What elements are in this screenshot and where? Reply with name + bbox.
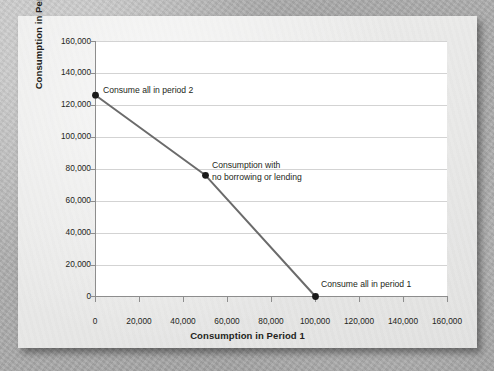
data-point-no-borrowing-or-lending[interactable]: [202, 172, 209, 179]
annotation-line-2: no borrowing or lending: [212, 172, 302, 184]
annotation-consumption-no-borrowing: Consumption with no borrowing or lending: [212, 160, 302, 183]
chart-plot-frame: Consumption in Period 2 Consumption in P…: [18, 16, 477, 348]
y-axis-ticks: [90, 42, 95, 297]
data-point-consume-all-period-1[interactable]: [312, 293, 319, 300]
annotation-line-1: Consumption with: [212, 160, 302, 172]
figure-card: Consumption in Period 2 Consumption in P…: [18, 16, 477, 348]
data-point-consume-all-period-2[interactable]: [92, 92, 99, 99]
annotation-consume-all-period-2: Consume all in period 2: [103, 85, 193, 97]
annotation-consume-all-period-1: Consume all in period 1: [321, 279, 411, 291]
